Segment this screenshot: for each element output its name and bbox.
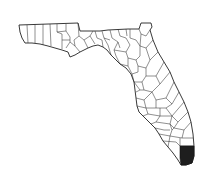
florida-county-map: Florida counties: [0, 0, 199, 180]
highlighted-county-miami-dade: [180, 146, 194, 165]
map-svg: [0, 0, 199, 180]
